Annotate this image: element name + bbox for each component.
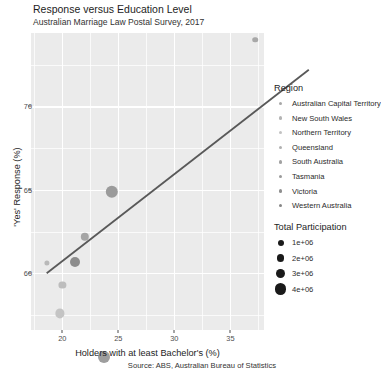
region-legend-swatch-icon <box>274 204 287 208</box>
source-caption: Source: ABS, Australian Bureau of Statis… <box>31 361 276 370</box>
region-legend-item[interactable]: Australian Capital Territory <box>274 97 381 110</box>
region-legend-label: Western Australia <box>292 201 351 210</box>
region-legend-swatch-icon <box>274 189 287 193</box>
size-legend-item[interactable]: 1e+06 <box>274 236 313 249</box>
region-legend-item[interactable]: South Australia <box>274 155 343 168</box>
size-legend-label: 3e+06 <box>292 269 313 278</box>
region-legend-label: New South Wales <box>292 114 352 123</box>
data-point[interactable] <box>70 257 80 267</box>
y-tick-mark <box>28 273 31 274</box>
size-legend-swatch-icon <box>274 269 287 279</box>
size-legend-title: Total Participation <box>274 222 347 232</box>
region-legend-item[interactable]: Queensland <box>274 141 333 154</box>
region-legend-title: Region <box>274 83 303 93</box>
region-legend-item[interactable]: Victoria <box>274 185 317 198</box>
size-legend-item[interactable]: 2e+06 <box>274 252 313 265</box>
y-tick-mark <box>28 106 31 107</box>
region-legend-label: Australian Capital Territory <box>292 99 381 108</box>
region-legend-label: Victoria <box>292 187 317 196</box>
chart-title: Response versus Education Level <box>33 3 192 15</box>
x-axis-title: Holders with at least Bachelor's (%) <box>31 348 264 358</box>
size-legend-label: 4e+06 <box>292 285 313 294</box>
region-legend-swatch-icon <box>274 146 287 150</box>
region-legend-swatch-icon <box>274 102 287 106</box>
size-legend-swatch-icon <box>274 240 287 246</box>
region-legend-item[interactable]: Western Australia <box>274 199 351 212</box>
y-tick-mark <box>28 189 31 190</box>
x-tick-label: 35 <box>226 334 234 343</box>
x-tick-label: 25 <box>114 334 122 343</box>
region-legend-swatch-icon <box>274 175 287 179</box>
x-tick-mark <box>62 330 63 333</box>
x-tick-mark <box>118 330 119 333</box>
trendline <box>31 33 264 330</box>
region-legend-label: South Australia <box>292 157 343 166</box>
region-legend-label: Tasmania <box>292 172 325 181</box>
x-tick-label: 20 <box>58 334 66 343</box>
trend-line-segment <box>47 70 309 274</box>
x-tick-mark <box>230 330 231 333</box>
size-legend-swatch-icon <box>274 283 287 295</box>
data-point[interactable] <box>252 37 258 43</box>
size-legend-item[interactable]: 4e+06 <box>274 283 313 296</box>
region-legend-swatch-icon <box>274 160 287 164</box>
region-legend-label: Northern Territory <box>292 128 351 137</box>
region-legend-item[interactable]: Tasmania <box>274 170 325 183</box>
region-legend-swatch-icon <box>274 116 287 120</box>
size-legend-label: 2e+06 <box>292 254 313 263</box>
size-legend-label: 1e+06 <box>292 238 313 247</box>
region-legend-label: Queensland <box>292 143 333 152</box>
plot-panel <box>31 33 264 330</box>
region-legend-item[interactable]: Northern Territory <box>274 126 351 139</box>
x-tick-label: 30 <box>170 334 178 343</box>
size-legend-swatch-icon <box>274 254 287 262</box>
y-axis-title: 'Yes' Response (%) <box>12 112 22 262</box>
region-legend-swatch-icon <box>274 131 287 135</box>
size-legend-item[interactable]: 3e+06 <box>274 267 313 280</box>
region-legend-item[interactable]: New South Wales <box>274 112 352 125</box>
x-tick-mark <box>174 330 175 333</box>
chart-subtitle: Australian Marriage Law Postal Survey, 2… <box>33 17 204 27</box>
